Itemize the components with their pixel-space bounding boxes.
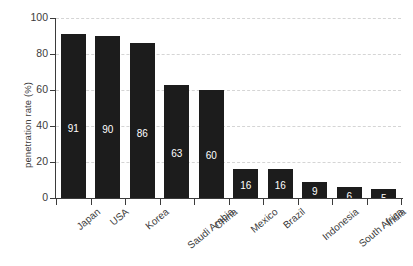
y-axis-tick-mark: [50, 162, 55, 163]
y-axis-line: [55, 18, 56, 199]
bar-value-label: 16: [268, 180, 293, 191]
bar[interactable]: 90: [95, 36, 120, 198]
y-axis-tick-mark: [50, 198, 55, 199]
x-axis-tick-label: USA: [108, 206, 131, 228]
y-axis-tick-mark: [50, 126, 55, 127]
bar[interactable]: 16: [268, 169, 293, 198]
x-axis-tick-mark: [125, 199, 126, 205]
y-axis-tick-mark: [50, 54, 55, 55]
y-axis-tick-labels: 020406080100: [0, 0, 48, 266]
bar[interactable]: 63: [164, 85, 189, 198]
x-axis-tick-label: Indonesia: [320, 206, 360, 242]
x-axis-tick-label: Mexico: [248, 206, 279, 235]
y-axis-tick-label: 60: [4, 83, 48, 95]
bar[interactable]: 6: [337, 187, 362, 198]
bar-value-label: 16: [233, 180, 258, 191]
y-axis-tick-label: 80: [4, 47, 48, 59]
x-axis-tick-mark: [401, 199, 402, 205]
bar[interactable]: 16: [233, 169, 258, 198]
x-axis-tick-mark: [194, 199, 195, 205]
bar[interactable]: 9: [302, 182, 327, 198]
x-axis-tick-label: Japan: [75, 206, 103, 232]
x-axis-tick-mark: [56, 199, 57, 205]
bar[interactable]: 91: [61, 34, 86, 198]
bar[interactable]: 86: [130, 43, 155, 198]
x-axis-tick-mark: [229, 199, 230, 205]
y-axis-tick-label: 40: [4, 119, 48, 131]
bar-value-label: 60: [199, 150, 224, 161]
x-axis-tick-label: Brazil: [281, 206, 307, 231]
x-axis-tick-label: Korea: [143, 206, 171, 232]
y-axis-tick-label: 20: [4, 155, 48, 167]
bar[interactable]: 5: [371, 189, 396, 198]
bar-value-label: 6: [337, 191, 362, 202]
x-axis-tick-label: India: [384, 206, 408, 228]
bar-value-label: 63: [164, 148, 189, 159]
x-axis-tick-mark: [367, 199, 368, 205]
y-axis-tick-mark: [50, 18, 55, 19]
x-axis-tick-mark: [332, 199, 333, 205]
bar-value-label: 90: [95, 124, 120, 135]
x-axis-tick-mark: [160, 199, 161, 205]
x-axis-tick-mark: [91, 199, 92, 205]
plot-area: 91908663601616965: [56, 18, 401, 198]
x-axis-tick-mark: [263, 199, 264, 205]
bar-value-label: 9: [302, 186, 327, 197]
bar[interactable]: 60: [199, 90, 224, 198]
bar-value-label: 91: [61, 123, 86, 134]
x-axis-tick-mark: [298, 199, 299, 205]
y-axis-tick-label: 100: [4, 11, 48, 23]
x-axis-tick-label: China: [212, 206, 239, 231]
y-axis-tick-label: 0: [4, 191, 48, 203]
gridline: [56, 18, 401, 19]
bar-chart: penetration rate (%) 020406080100 919086…: [0, 0, 413, 266]
bar-value-label: 86: [130, 128, 155, 139]
y-axis-tick-mark: [50, 90, 55, 91]
